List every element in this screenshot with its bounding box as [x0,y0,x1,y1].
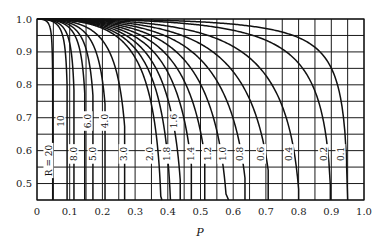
f-factor-chart: R = 20108.06.05.04.03.02.01.81.61.41.21.… [0,0,382,244]
curve-label-text: R = 20 [44,144,54,176]
curve-label: 0.6 [256,144,267,164]
x-tick-label: 0.5 [193,206,209,217]
y-tick-label: 0.8 [16,79,32,90]
x-tick-label: 0.4 [160,206,176,217]
x-tick-label: 0.9 [323,206,339,217]
x-tick-label: 0.3 [127,206,143,217]
curve-label-text: 1.0 [218,147,228,162]
curve-labels: R = 20108.06.05.04.03.02.01.81.61.41.21.… [43,111,346,178]
curve-label: 0.8 [235,144,246,164]
curve-label: 0.2 [318,144,329,164]
curve-label: 0.4 [284,144,295,164]
curve-label: 10 [56,114,67,128]
curve-label-text: 6.0 [83,114,93,129]
curve-r-0-8 [37,19,245,200]
curve-label-text: 0.8 [235,147,245,162]
grid [37,19,364,200]
curve-r-1-8 [37,19,170,200]
curve-label: 0.1 [335,144,346,164]
curve-label: 6.0 [83,111,94,131]
curve-r-8 [37,19,74,200]
x-tick-label: 0 [34,206,40,217]
curve-label: 1.4 [186,144,197,164]
curve-label: 3.0 [119,144,130,164]
curve-label-text: 1.2 [203,147,213,161]
x-tick-label: 1.0 [356,206,372,217]
curve-label-text: 0.4 [284,147,294,162]
curve-label-text: 10 [56,115,66,127]
curve-r-2 [37,19,162,200]
x-tick-label: 0.8 [291,206,307,217]
curve-label-text: 2.0 [145,147,155,162]
x-tick-label: 0.2 [94,206,110,217]
curve-label-text: 8.0 [69,147,79,162]
curve-label-text: 1.8 [162,147,172,162]
curve-label: 5.0 [88,144,99,164]
curve-label: 1.6 [169,111,180,131]
curve-label-text: 1.4 [186,147,196,162]
curve-label-text: 3.0 [119,147,129,162]
y-axis-ticks: 0.50.60.70.80.91.0 [16,14,32,190]
curve-label: 8.0 [69,144,80,164]
y-tick-label: 0.7 [16,112,32,123]
curve-label: R = 20 [43,143,54,178]
y-tick-label: 0.5 [16,178,32,189]
curve-label-text: 0.2 [319,147,329,161]
curve-label: 4.0 [99,111,110,131]
curve-r-0-1 [37,19,348,200]
y-tick-label: 0.9 [16,46,32,57]
x-axis-title: P [195,226,204,239]
curve-label: 1.0 [217,144,228,164]
y-tick-label: 0.6 [16,145,32,156]
curve-label-text: 5.0 [88,147,98,162]
curve-label-text: 1.6 [169,114,179,129]
x-tick-label: 0.6 [225,206,241,217]
y-tick-label: 1.0 [16,14,32,25]
curve-label-text: 0.6 [256,147,266,162]
curve-label-text: 0.1 [336,147,346,161]
x-tick-label: 0.7 [258,206,274,217]
curve-r-1-6 [37,19,180,200]
curve-label: 1.2 [202,144,213,164]
curve-label: 2.0 [145,144,156,164]
x-tick-label: 0.1 [62,206,78,217]
curve-label-text: 4.0 [100,114,110,129]
curve-label: 1.8 [161,144,172,164]
x-axis-ticks: 00.10.20.30.40.50.60.70.80.91.0 [34,206,372,217]
